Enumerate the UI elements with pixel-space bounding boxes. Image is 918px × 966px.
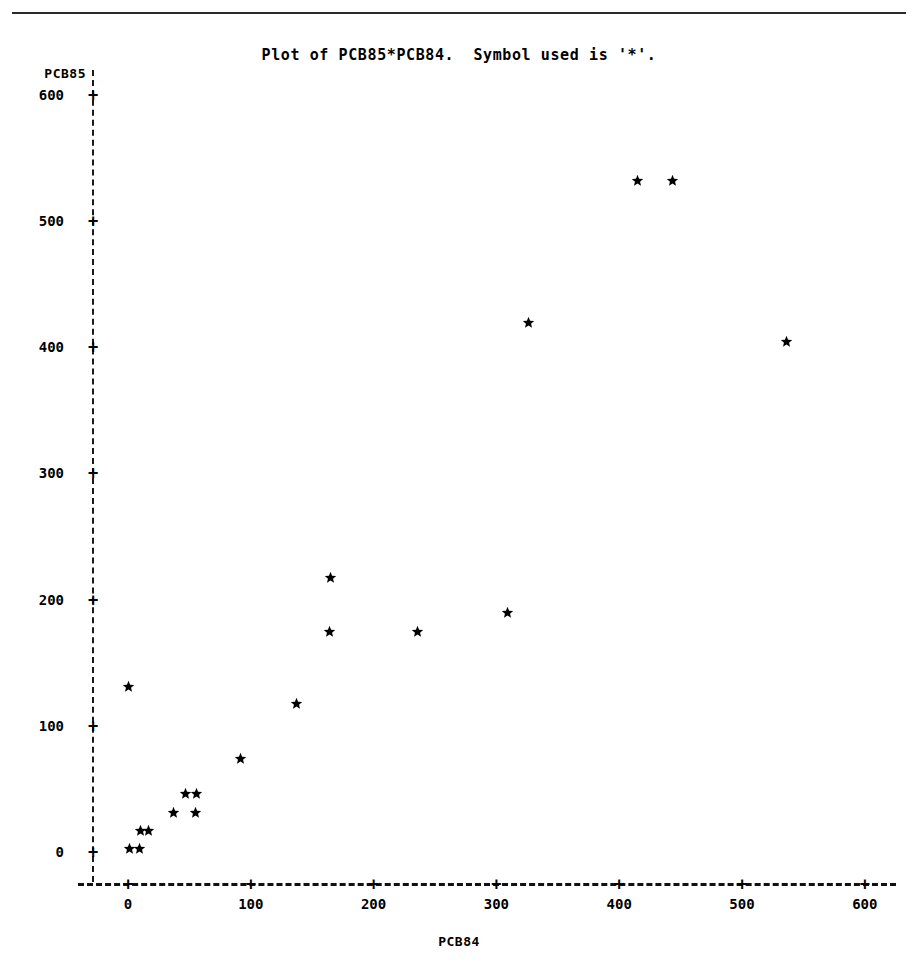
y-axis-variable-label: PCB85: [0, 66, 86, 81]
x-tick-marker: +: [858, 877, 872, 891]
y-tick-marker: +: [86, 844, 100, 860]
scatter-point: [122, 680, 135, 693]
scatter-point: [411, 625, 424, 638]
x-tick-marker: +: [489, 877, 503, 891]
x-tick-marker: +: [735, 877, 749, 891]
x-axis-line: [78, 883, 896, 886]
scatter-point: [780, 335, 793, 348]
scatter-point: [323, 625, 336, 638]
x-tick-marker: +: [121, 877, 135, 891]
scatter-point: [189, 806, 202, 819]
x-tick-marker: +: [244, 877, 258, 891]
scatter-point: [501, 606, 514, 619]
x-tick-label: 600: [825, 896, 905, 912]
x-tick-label: 100: [211, 896, 291, 912]
y-tick-label: 0: [56, 844, 64, 860]
scatter-point: [631, 174, 644, 187]
x-tick-label: 200: [334, 896, 414, 912]
plot-area: PCB85 0+100+200+300+400+500+600+ +0+100+…: [0, 0, 918, 966]
y-tick-label: 100: [39, 718, 64, 734]
plot-page: Plot of PCB85*PCB84. Symbol used is '*'.…: [0, 0, 918, 966]
y-tick-marker: +: [86, 213, 100, 229]
y-tick-label: 600: [39, 87, 64, 103]
y-tick-label: 400: [39, 339, 64, 355]
y-tick-label: 500: [39, 213, 64, 229]
scatter-point: [133, 842, 146, 855]
x-tick-label: 400: [579, 896, 659, 912]
x-tick-label: 300: [456, 896, 536, 912]
y-tick-label: 300: [39, 465, 64, 481]
y-tick-marker: +: [86, 592, 100, 608]
scatter-point: [290, 697, 303, 710]
scatter-point: [234, 752, 247, 765]
scatter-point: [324, 571, 337, 584]
y-tick-label: 200: [39, 592, 64, 608]
x-tick-marker: +: [367, 877, 381, 891]
scatter-point: [167, 806, 180, 819]
scatter-point: [190, 787, 203, 800]
x-axis-variable-label: PCB84: [0, 934, 918, 949]
x-tick-label: 500: [702, 896, 782, 912]
scatter-point: [142, 824, 155, 837]
scatter-point: [666, 174, 679, 187]
x-tick-marker: +: [612, 877, 626, 891]
y-tick-marker: +: [86, 87, 100, 103]
y-tick-marker: +: [86, 465, 100, 481]
y-tick-marker: +: [86, 718, 100, 734]
x-tick-label: 0: [88, 896, 168, 912]
scatter-point: [522, 316, 535, 329]
y-tick-marker: +: [86, 339, 100, 355]
